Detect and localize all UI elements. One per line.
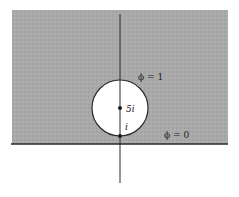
- center-point-label: 5i: [126, 104, 135, 114]
- diagram-canvas: ϕ = 1 5i i ϕ = 0: [0, 0, 239, 197]
- tangent-point-dot: [118, 134, 122, 138]
- phi-zero-label: ϕ = 0: [164, 130, 189, 140]
- center-point-dot: [118, 106, 122, 110]
- tangent-point-label: i: [125, 122, 128, 132]
- phi-one-label: ϕ = 1: [138, 72, 163, 82]
